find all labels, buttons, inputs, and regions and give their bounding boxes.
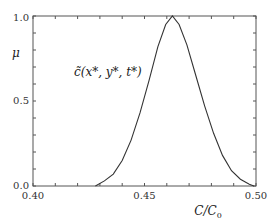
axis-ticks — [33, 16, 256, 186]
y-axis-title: μ — [12, 46, 20, 60]
plot-frame — [33, 16, 256, 186]
chart: 0.40 0.45 0.50 0.0 0.5 1.0 μ C/C0 c̃(x*,… — [0, 0, 272, 224]
y-tick-label: 0.0 — [13, 180, 29, 191]
x-axis-title: C/C0 — [194, 204, 222, 220]
y-tick-label: 0.5 — [13, 95, 29, 106]
x-tick-label: 0.45 — [133, 190, 155, 201]
x-tick-label: 0.40 — [22, 190, 44, 201]
data-curve — [95, 16, 253, 186]
svg-text:C/C0: C/C0 — [194, 204, 222, 220]
x-axis-title-subscript: 0 — [217, 211, 222, 220]
y-tick-label: 1.0 — [13, 12, 29, 23]
curve-label: c̃(x*, y*, t*) — [74, 65, 142, 79]
tick-labels: 0.40 0.45 0.50 0.0 0.5 1.0 — [13, 12, 267, 201]
x-axis-title-main: C/C — [194, 204, 216, 218]
x-tick-label: 0.50 — [245, 190, 267, 201]
